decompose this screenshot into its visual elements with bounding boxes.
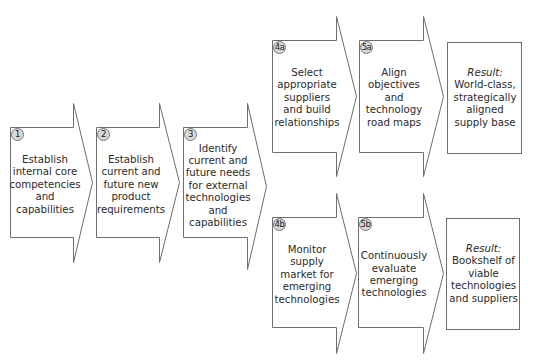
- step-5b-text: Continuously evaluate emerging technolog…: [358, 250, 430, 300]
- step-2-label: Establish current and future new product…: [98, 140, 164, 230]
- step-4a-text: Select appropriate suppliers and build r…: [274, 67, 340, 129]
- result-a-heading: Result:: [467, 67, 502, 79]
- step-5a-text: Align objectives and technology road map…: [361, 67, 427, 129]
- step-3-label: Identify current and future needs for ex…: [184, 140, 252, 232]
- result-b-text: Bookshelf of viable technologies and sup…: [447, 255, 520, 305]
- step-2-text: Establish current and future new product…: [97, 154, 165, 216]
- step-4a-label: Select appropriate suppliers and build r…: [274, 52, 340, 144]
- result-a-text: World-class, strategically aligned suppl…: [448, 79, 522, 129]
- result-b-label: Result: Bookshelf of viable technologies…: [447, 220, 520, 328]
- step-4b-text: Monitor supply market for emerging techn…: [274, 244, 340, 306]
- step-5b-label: Continuously evaluate emerging technolog…: [358, 229, 430, 321]
- step-1-label: Establish internal core competencies and…: [12, 140, 78, 230]
- step-1-text: Establish internal core competencies and…: [9, 154, 80, 216]
- step-4b-label: Monitor supply market for emerging techn…: [274, 229, 340, 321]
- step-3-text: Identify current and future needs for ex…: [184, 143, 252, 230]
- result-b-heading: Result:: [466, 243, 501, 255]
- result-a-label: Result: World-class, strategically align…: [448, 44, 522, 152]
- step-5a-label: Align objectives and technology road map…: [361, 52, 427, 144]
